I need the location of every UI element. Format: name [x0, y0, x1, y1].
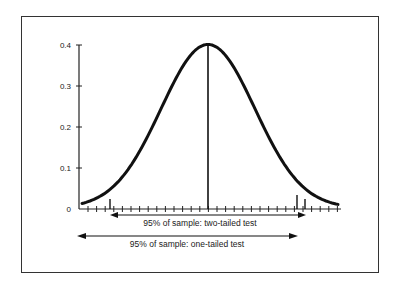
y-tick-0.4: 0.4	[60, 41, 72, 50]
y-tick-0.2: 0.2	[60, 123, 72, 132]
normal-distribution-chart: 0.4 0.3 0.2 0.1 0 95% of sample: two-tai…	[0, 0, 400, 289]
y-tick-0.3: 0.3	[60, 82, 72, 91]
y-tick-0: 0	[67, 205, 72, 214]
two-tailed-label: 95% of sample: two-tailed test	[143, 218, 257, 228]
bell-curve	[82, 44, 338, 204]
one-tailed-label: 95% of sample: one-tailed test	[130, 239, 245, 249]
y-tick-0.1: 0.1	[60, 164, 72, 173]
